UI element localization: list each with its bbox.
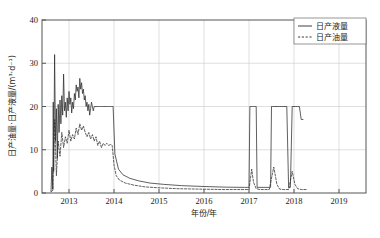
xticklabel-2015: 2015	[151, 196, 168, 206]
data-series-layer	[51, 55, 308, 192]
xticklabel-2018: 2018	[286, 196, 303, 206]
x-axis-ticks: 2013 2014 2015 2016 2017 2018 2019	[61, 189, 348, 206]
legend[interactable]: 日产液量 日产油量	[294, 18, 366, 44]
yticklabel-30: 30	[30, 58, 39, 68]
yticklabel-40: 40	[30, 15, 39, 25]
x-axis-title: 年份/年	[191, 208, 218, 218]
series-line-oil-production	[51, 119, 308, 191]
xticklabel-2013: 2013	[61, 196, 78, 206]
xticklabel-2016: 2016	[196, 196, 213, 206]
series-line-liquid-production	[51, 55, 303, 192]
xticklabel-2017: 2017	[241, 196, 258, 206]
yticklabel-20: 20	[30, 102, 39, 112]
legend-label-oil: 日产油量	[316, 32, 348, 42]
legend-label-liquid: 日产液量	[316, 21, 348, 31]
y-axis-ticks: 0 10 20 30 40	[30, 15, 47, 198]
yticklabel-0: 0	[34, 188, 38, 198]
production-rate-line-chart: 0 10 20 30 40 2013 2014 2015 2016 2017 2…	[0, 0, 380, 238]
yticklabel-10: 10	[30, 145, 39, 155]
xticklabel-2019: 2019	[331, 196, 348, 206]
y-axis-title: 日产油量·日产液量/(m³·d⁻¹)	[7, 55, 17, 157]
chart-figure: 0 10 20 30 40 2013 2014 2015 2016 2017 2…	[0, 0, 380, 238]
xticklabel-2014: 2014	[106, 196, 124, 206]
